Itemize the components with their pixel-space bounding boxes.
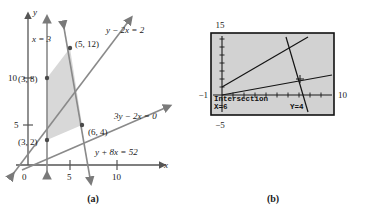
label-y-minus-2x: y − 2x = 2 (105, 25, 145, 35)
label-point-6-4: (6, 4) (88, 127, 108, 137)
label-x-equals-3: x = 3 (31, 34, 52, 44)
vertex-dot-3-2 (45, 138, 49, 142)
calc-window-bottom-label: −5 (215, 120, 225, 130)
y-tick-label-5: 5 (14, 120, 19, 130)
panel-a-caption: (a) (73, 193, 113, 204)
x-tick-label-10: 10 (112, 172, 122, 182)
panel-b: Intersection X=6 Y=4 15 −1 10 −5 (b) (186, 0, 372, 221)
calc-window-top-label: 15 (216, 20, 226, 30)
label-point-3-2: (3, 2) (18, 137, 38, 147)
feasible-region-shading (47, 48, 82, 140)
panel-a: y x 10 5 5 10 0 x = 3 y − 2x = 2 3y − 2x… (0, 0, 186, 221)
label-point-3-8: (3, 8) (18, 74, 38, 84)
origin-label: 0 (22, 172, 27, 182)
intersection-x-value: X=6 (214, 103, 228, 111)
calc-window-left-label: −1 (198, 90, 208, 100)
calc-window-right-label: 10 (338, 90, 348, 100)
vertex-dot-6-4 (80, 123, 84, 127)
label-point-5-12: (5, 12) (75, 39, 99, 49)
calculator-svg: Intersection X=6 Y=4 15 −1 10 −5 (186, 0, 372, 200)
intersection-y-value: Y=4 (290, 103, 304, 111)
vertex-dot-3-8 (45, 76, 49, 80)
y-axis-label: y (32, 7, 37, 17)
vertex-dot-5-12 (68, 46, 72, 50)
label-3y-minus-2x: 3y − 2x = 0 (113, 111, 157, 121)
intersection-title: Intersection (214, 95, 269, 103)
x-axis-label: x (163, 160, 168, 170)
label-y-plus-8x: y + 8x = 52 (94, 147, 138, 157)
x-tick-label-5: 5 (67, 172, 72, 182)
figure-container: y x 10 5 5 10 0 x = 3 y − 2x = 2 3y − 2x… (0, 0, 372, 221)
y-tick-label-10: 10 (8, 73, 18, 83)
panel-b-caption: (b) (253, 193, 293, 204)
graph-a-svg: y x 10 5 5 10 0 x = 3 y − 2x = 2 3y − 2x… (0, 0, 186, 190)
